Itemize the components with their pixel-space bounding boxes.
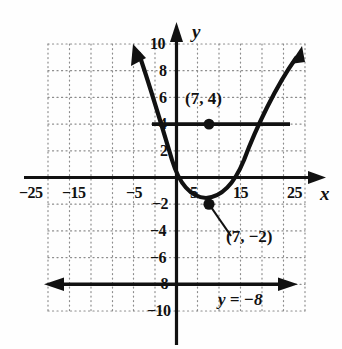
x-tick-label-neg25: −25	[19, 185, 43, 201]
line-y-equals-neg8	[44, 278, 298, 292]
y-tick-label-neg2: −2	[152, 196, 168, 212]
y-tick-label-neg4: −4	[150, 223, 166, 239]
graph-figure: 10 8 6 4 2 −2 −4 −6 −8 −10 −25 −15 −5 5 …	[0, 0, 342, 349]
x-tick-label-5: 5	[190, 185, 198, 201]
point-label-7-4: (7, 4)	[185, 90, 222, 107]
y-tick-label-4: 4	[159, 116, 167, 132]
y-tick-label-8: 8	[159, 63, 167, 79]
y-tick-label-2: 2	[160, 143, 168, 159]
x-tick-label-25: 25	[287, 185, 302, 201]
x-tick-label-neg15: −15	[62, 185, 86, 201]
y-tick-label-neg6: −6	[150, 250, 166, 266]
coordinate-plane	[0, 0, 342, 349]
x-tick-label-15: 15	[233, 185, 248, 201]
parabola-curve	[131, 44, 305, 198]
point-label-7-neg2: (7, −2)	[226, 228, 273, 245]
x-tick-label-neg5: −5	[126, 185, 142, 201]
x-axis-label: x	[320, 184, 330, 203]
y-tick-label-10: 10	[150, 36, 165, 52]
y-tick-label-neg10: −10	[147, 303, 171, 319]
y-tick-label-6: 6	[159, 90, 167, 106]
point-marker-7-4	[204, 119, 215, 130]
line-label-y-neg8: y = −8	[218, 291, 263, 308]
y-axis-label: y	[192, 22, 200, 41]
y-tick-label-neg8: −8	[152, 276, 168, 292]
